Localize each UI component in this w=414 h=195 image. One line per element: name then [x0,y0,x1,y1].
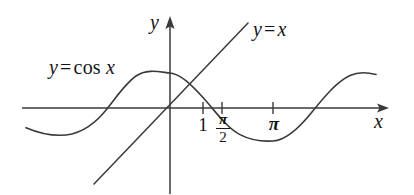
math-figure: y=cos x y=x y x 1 π 2 π [0,0,414,195]
curve-label-cosine: y=cos x [49,57,115,77]
curve-label-identity: y=x [253,19,287,39]
x-axis-label: x [374,111,383,131]
identity-label-y: y [253,18,262,40]
cosine-label-equals: = [58,56,73,78]
half-pi-numerator: π [216,112,230,128]
plot-canvas [0,0,414,195]
tick-label-pi: π [263,114,285,133]
identity-line-curve [94,23,248,184]
cosine-label-argument: x [106,56,115,78]
half-pi-denominator: 2 [216,129,230,145]
half-pi-fraction: π 2 [216,112,230,145]
identity-label-equals: = [262,18,277,40]
cosine-label-function: cos [74,56,101,78]
tick-label-half-pi: π 2 [211,112,235,145]
x-axis [22,103,389,112]
y-axis-label: y [150,12,159,32]
tick-label-one: 1 [193,115,213,134]
cosine-label-y: y [49,56,58,78]
identity-label-argument: x [278,18,287,40]
